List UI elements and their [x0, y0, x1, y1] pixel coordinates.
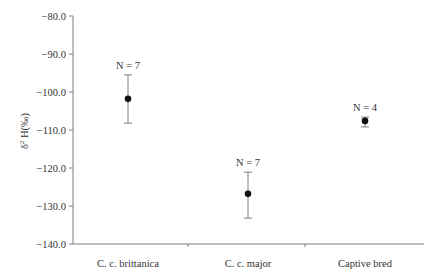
- y-tick-label: −90.0: [42, 49, 66, 60]
- y-axis: −80.0−90.0−100.0−110.0−120.0−130.0−140.0: [36, 11, 73, 250]
- data-series: N = 7N = 7N = 4: [116, 60, 378, 218]
- mean-marker: [362, 118, 369, 125]
- y-axis-label: δ2 H(‰): [18, 112, 31, 149]
- x-category-label: C. c. brittanica: [97, 258, 159, 269]
- data-point-group: N = 7: [236, 157, 260, 218]
- y-tick-label: −130.0: [36, 201, 66, 212]
- y-tick-label: −100.0: [36, 87, 66, 98]
- y-tick-label: −140.0: [36, 239, 66, 250]
- y-tick-label: −120.0: [36, 163, 66, 174]
- y-tick-label: −110.0: [37, 125, 66, 136]
- x-category-label: C. c. major: [225, 258, 272, 269]
- chart: −80.0−90.0−100.0−110.0−120.0−130.0−140.0…: [0, 0, 443, 279]
- data-point-group: N = 7: [116, 60, 140, 123]
- data-point-group: N = 4: [353, 102, 378, 127]
- x-category-label: Captive bred: [338, 258, 393, 269]
- mean-marker: [245, 191, 252, 198]
- x-axis: C. c. brittanicaC. c. majorCaptive bred: [73, 244, 424, 269]
- mean-marker: [125, 96, 132, 103]
- sample-size-label: N = 7: [236, 157, 260, 168]
- sample-size-label: N = 4: [353, 102, 378, 113]
- y-tick-label: −80.0: [42, 11, 66, 22]
- sample-size-label: N = 7: [116, 60, 140, 71]
- ylabel-text: H(‰): [19, 112, 31, 140]
